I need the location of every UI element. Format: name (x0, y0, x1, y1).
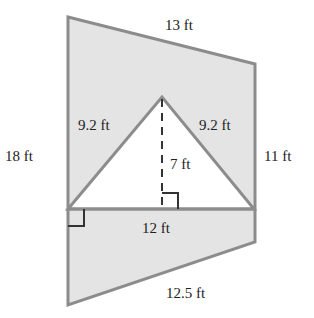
label-triangle-right: 9.2 ft (199, 117, 231, 133)
label-top: 13 ft (165, 17, 194, 33)
label-triangle-left: 9.2 ft (78, 117, 110, 133)
composite-figure-diagram: 13 ft 18 ft 11 ft 12.5 ft 9.2 ft 9.2 ft … (0, 0, 314, 318)
label-triangle-base: 12 ft (142, 220, 171, 236)
label-left: 18 ft (5, 148, 34, 164)
label-triangle-height: 7 ft (170, 156, 191, 172)
label-right: 11 ft (264, 148, 292, 164)
label-bottom: 12.5 ft (166, 285, 206, 301)
